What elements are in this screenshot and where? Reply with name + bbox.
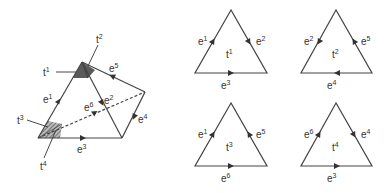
triangle-t1: e1 e2 t1 e3 bbox=[195, 10, 267, 91]
label-e4: e4 bbox=[138, 113, 148, 125]
svg-text:e4: e4 bbox=[361, 128, 371, 140]
label-t2: t2 bbox=[96, 33, 103, 45]
svg-text:e1: e1 bbox=[198, 128, 208, 140]
left-figure: t1 t2 t3 t4 e1 e2 e3 e4 e5 e6 bbox=[17, 33, 148, 172]
pointer-t3 bbox=[27, 120, 48, 127]
label-e2: e2 bbox=[104, 94, 114, 106]
svg-text:e3: e3 bbox=[221, 79, 231, 91]
label-t3: t3 bbox=[17, 114, 24, 126]
svg-text:e2: e2 bbox=[304, 35, 314, 47]
arrow-left-icon bbox=[209, 130, 217, 138]
arrow-bottom-icon bbox=[228, 163, 234, 169]
arrow-bottom-icon bbox=[334, 163, 340, 169]
svg-text:e3: e3 bbox=[327, 172, 337, 184]
corner-t1-t2-shade bbox=[73, 62, 95, 78]
arrow-left-icon bbox=[315, 130, 323, 138]
svg-text:e4: e4 bbox=[327, 79, 337, 91]
triangle-t4: e6 e4 t4 e3 bbox=[301, 103, 372, 184]
label-t4: t4 bbox=[40, 160, 47, 172]
svg-text:t1: t1 bbox=[226, 48, 233, 60]
diagram-canvas: t1 t2 t3 t4 e1 e2 e3 e4 e5 e6 e1 e2 t1 e… bbox=[0, 0, 392, 193]
label-e3: e3 bbox=[77, 143, 87, 155]
label-e6: e6 bbox=[84, 101, 94, 113]
svg-text:t2: t2 bbox=[332, 48, 339, 60]
label-e1: e1 bbox=[43, 93, 53, 105]
triangle-t2: e2 e5 t2 e4 bbox=[301, 10, 372, 91]
arrow-bottom-icon bbox=[228, 70, 234, 76]
arrow-right-icon bbox=[245, 130, 253, 138]
svg-text:e6: e6 bbox=[304, 128, 314, 140]
arrow-right-icon bbox=[350, 131, 358, 139]
svg-text:t3: t3 bbox=[226, 141, 233, 153]
arrow-right-icon bbox=[245, 38, 253, 46]
svg-text:e2: e2 bbox=[256, 35, 266, 47]
svg-text:e5: e5 bbox=[361, 35, 371, 47]
arrow-e3-icon bbox=[80, 135, 86, 141]
arrow-e6-icon bbox=[91, 109, 99, 117]
arrow-left-icon bbox=[209, 37, 217, 45]
svg-text:e1: e1 bbox=[198, 35, 208, 47]
label-e5: e5 bbox=[109, 62, 119, 74]
svg-text:e6: e6 bbox=[221, 172, 231, 184]
svg-text:e5: e5 bbox=[256, 128, 266, 140]
edge-e6 bbox=[38, 92, 145, 138]
triangle-t3: e1 e5 t3 e6 bbox=[195, 103, 267, 184]
pointer-t2 bbox=[88, 45, 98, 66]
arrow-right-icon bbox=[350, 37, 358, 45]
arrow-bottom-icon bbox=[334, 70, 340, 76]
label-t1: t1 bbox=[43, 66, 50, 78]
svg-text:t4: t4 bbox=[332, 141, 339, 153]
